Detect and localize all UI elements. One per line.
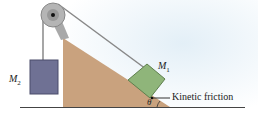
friction-label: Kinetic friction bbox=[172, 91, 233, 102]
incline-pulley-system bbox=[0, 0, 258, 121]
physics-diagram: M2 M1 Kinetic friction θ bbox=[0, 0, 258, 121]
block-m2 bbox=[30, 60, 58, 94]
label-m1: M1 bbox=[158, 60, 170, 74]
m2-subscript: 2 bbox=[17, 79, 21, 87]
angle-label: θ bbox=[147, 97, 151, 107]
pulley-axle bbox=[51, 13, 55, 17]
m1-subscript: 1 bbox=[166, 66, 170, 74]
label-m2: M2 bbox=[9, 73, 21, 87]
